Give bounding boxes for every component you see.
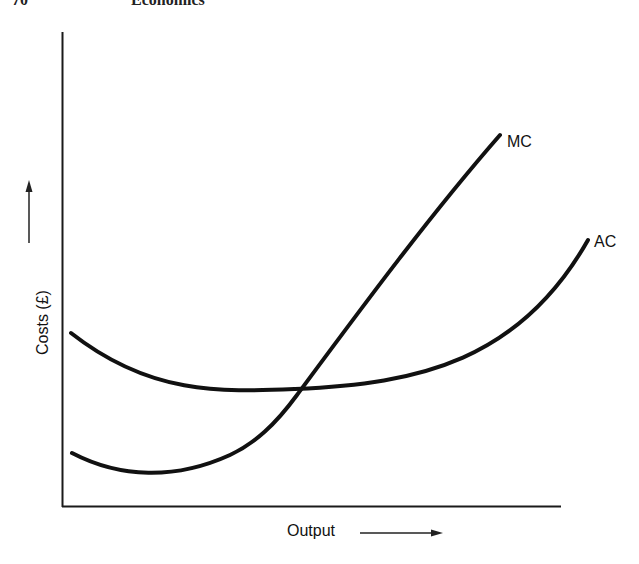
- x-axis-arrow-icon: [360, 530, 443, 537]
- y-axis-label: Costs (£): [34, 290, 52, 355]
- y-axis-arrow-icon: [26, 180, 33, 243]
- ac-curve-label: AC: [594, 233, 616, 251]
- ac-curve: [71, 240, 588, 390]
- mc-curve: [72, 135, 500, 473]
- cost-curves-diagram: [0, 0, 639, 564]
- mc-curve-label: MC: [507, 133, 532, 151]
- x-axis-label: Output: [287, 522, 335, 540]
